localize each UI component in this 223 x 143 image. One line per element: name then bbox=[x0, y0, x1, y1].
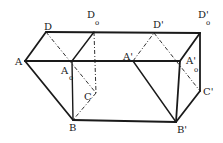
label-Dp: D' bbox=[153, 19, 164, 30]
edge-Ap-Dp bbox=[133, 33, 154, 61]
edge-A0-B bbox=[72, 61, 73, 120]
label-Bp: B' bbox=[177, 124, 187, 135]
label-D0-sub: o bbox=[95, 19, 99, 27]
label-A0-sub: o bbox=[69, 74, 73, 82]
prism-diagram: A D D o A o C B A' D' D' o A' o C' B' bbox=[0, 0, 223, 143]
edge-D0-A0 bbox=[72, 32, 94, 61]
label-C: C bbox=[84, 91, 92, 102]
edge-Ap-Bp bbox=[133, 61, 176, 122]
edge-B-Bp bbox=[73, 120, 176, 122]
label-Ap: A' bbox=[122, 51, 133, 62]
edge-D0-C bbox=[94, 32, 96, 93]
label-B: B bbox=[69, 122, 76, 133]
label-A0p: A' bbox=[185, 55, 196, 66]
point-labels: A D D o A o C B A' D' D' o A' o C' B' bbox=[14, 9, 213, 135]
label-A0: A bbox=[60, 65, 69, 76]
edge-A-D bbox=[25, 32, 46, 61]
edge-D-D0p bbox=[46, 32, 200, 33]
edge-D-C bbox=[46, 32, 96, 93]
edge-Cp-Bp bbox=[176, 91, 200, 122]
label-A: A bbox=[14, 56, 23, 67]
label-Cp: C' bbox=[203, 86, 213, 97]
edge-A0p-Bp bbox=[176, 61, 180, 122]
label-D: D bbox=[44, 21, 52, 32]
solid-edges bbox=[25, 32, 200, 122]
label-D0: D bbox=[87, 9, 95, 20]
label-D0p-sub: o bbox=[206, 19, 210, 27]
label-A0p-sub: o bbox=[194, 66, 198, 74]
